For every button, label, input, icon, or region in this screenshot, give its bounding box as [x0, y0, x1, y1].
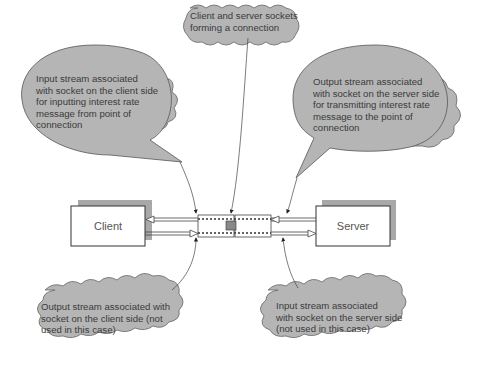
- socket-connection: [198, 215, 271, 237]
- callout-bottom-right-text: Input stream associated with socket on t…: [276, 300, 402, 335]
- server-label: Server: [316, 220, 390, 232]
- callout-bottom-left-text: Output stream associated with socket on …: [41, 301, 170, 336]
- pointer-arrows: [172, 38, 298, 290]
- callout-top-center-text: Client and server sockets forming a conn…: [190, 10, 298, 33]
- callout-top-left-text: Input stream associated with socket on t…: [36, 73, 158, 131]
- callout-top-right-text: Output stream associated with socket on …: [313, 76, 439, 134]
- client-label: Client: [71, 220, 145, 232]
